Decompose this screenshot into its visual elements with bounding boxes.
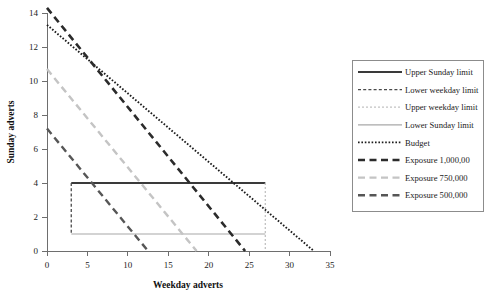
y-tick-label: 12 bbox=[29, 42, 38, 52]
legend-label-5: Budget bbox=[405, 138, 430, 148]
x-tick-label: 20 bbox=[204, 260, 214, 270]
x-axis-ticks: 05101520253035 bbox=[45, 251, 335, 270]
axes-group bbox=[47, 13, 330, 251]
legend-label-2: Lower weekday limit bbox=[405, 85, 479, 95]
y-tick-label: 8 bbox=[34, 110, 39, 120]
legend-label-3: Upper weekday limit bbox=[405, 102, 478, 112]
legend-label-6: Exposure 1,000,00 bbox=[405, 155, 470, 165]
y-tick-label: 14 bbox=[29, 8, 39, 18]
x-tick-label: 15 bbox=[164, 260, 174, 270]
series-exposure-1-000-00 bbox=[47, 8, 245, 251]
legend-label-7: Exposure 750,000 bbox=[405, 173, 468, 183]
series-exposure-500-000 bbox=[47, 129, 148, 251]
y-tick-label: 2 bbox=[34, 212, 39, 222]
x-tick-label: 30 bbox=[285, 260, 295, 270]
x-tick-label: 10 bbox=[123, 260, 133, 270]
series-budget bbox=[47, 25, 314, 251]
legend-border bbox=[353, 61, 484, 212]
x-tick-label: 35 bbox=[326, 260, 336, 270]
chart-legend: Upper Sunday limitLower weekday limitUpp… bbox=[353, 61, 484, 212]
data-series-group bbox=[47, 8, 314, 251]
x-tick-label: 0 bbox=[45, 260, 50, 270]
y-tick-label: 10 bbox=[29, 76, 39, 86]
y-tick-label: 6 bbox=[34, 144, 39, 154]
series-exposure-750-000 bbox=[47, 69, 197, 251]
y-axis-title: Sunday adverts bbox=[6, 100, 16, 163]
y-tick-label: 4 bbox=[34, 178, 39, 188]
x-tick-label: 25 bbox=[245, 260, 255, 270]
legend-label-8: Exposure 500,000 bbox=[405, 190, 468, 200]
y-axis-ticks: 02468101214 bbox=[29, 8, 47, 256]
chart-figure: 02468101214 05101520253035 Weekday adver… bbox=[0, 0, 490, 301]
x-tick-label: 5 bbox=[85, 260, 90, 270]
chart-canvas: 02468101214 05101520253035 Weekday adver… bbox=[0, 0, 490, 301]
x-axis-title: Weekday adverts bbox=[153, 280, 223, 290]
legend-label-4: Lower Sunday limit bbox=[405, 120, 474, 130]
legend-label-1: Upper Sunday limit bbox=[405, 67, 473, 77]
y-tick-label: 0 bbox=[34, 246, 39, 256]
